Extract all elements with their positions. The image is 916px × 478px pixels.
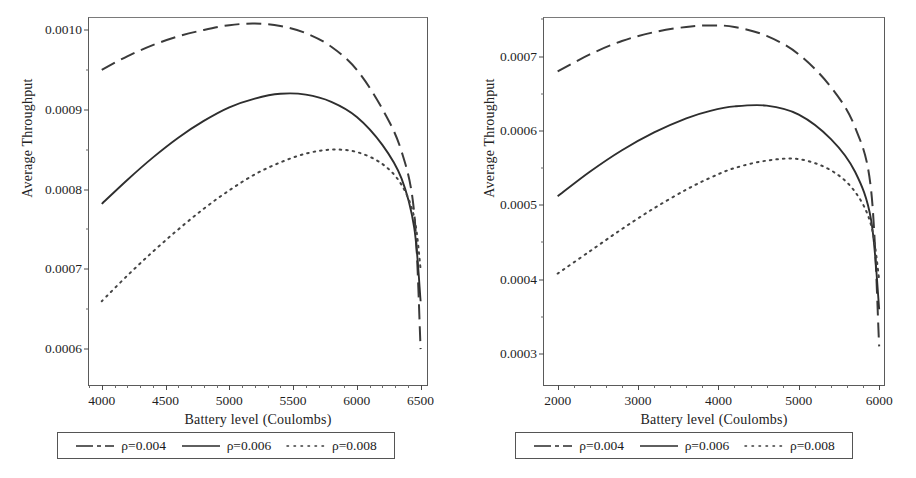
series-line-0 xyxy=(558,25,880,346)
right-x-axis-title: Battery level (Coulombs) xyxy=(544,412,884,428)
y-tick-label: 0.0007 xyxy=(45,261,89,277)
legend-entry-rho-0008: ρ=0.008 xyxy=(286,438,377,454)
y-tick-minor-mark xyxy=(86,309,89,310)
series-line-0 xyxy=(102,24,421,350)
x-tick-minor-mark xyxy=(370,385,371,388)
y-tick-minor-mark xyxy=(541,19,544,20)
right-legend: ρ=0.004 ρ=0.006 ρ=0.008 xyxy=(515,432,853,459)
y-tick-minor-mark xyxy=(86,149,89,150)
x-tick-mark xyxy=(229,385,230,390)
legend-entry-rho-0006: ρ=0.006 xyxy=(181,438,272,454)
x-tick-minor-mark xyxy=(306,385,307,388)
x-tick-mark xyxy=(102,385,103,390)
x-tick-mark xyxy=(293,385,294,390)
x-tick-minor-mark xyxy=(140,385,141,388)
series-line-2 xyxy=(102,150,421,302)
y-tick-mark xyxy=(84,29,89,30)
y-tick-label: 0.0007 xyxy=(500,49,544,65)
left-y-axis-title: Average Throughput xyxy=(20,58,36,218)
dashed-line-icon xyxy=(75,441,115,451)
x-tick-minor-mark xyxy=(115,385,116,388)
y-tick-mark xyxy=(84,109,89,110)
x-tick-minor-mark xyxy=(751,385,752,388)
x-tick-minor-mark xyxy=(191,385,192,388)
x-tick-minor-mark xyxy=(344,385,345,388)
y-tick-label: 0.0006 xyxy=(500,123,544,139)
y-tick-minor-mark xyxy=(541,93,544,94)
x-tick-mark xyxy=(558,385,559,390)
y-tick-minor-mark xyxy=(541,168,544,169)
x-tick-minor-mark xyxy=(574,385,575,388)
series-line-2 xyxy=(558,158,880,279)
x-tick-minor-mark xyxy=(382,385,383,388)
solid-line-icon xyxy=(639,441,679,451)
x-tick-minor-mark xyxy=(815,385,816,388)
x-tick-minor-mark xyxy=(606,385,607,388)
left-plot-canvas xyxy=(89,18,427,385)
legend-entry-rho-0004: ρ=0.004 xyxy=(533,438,624,454)
y-tick-minor-mark xyxy=(86,229,89,230)
x-tick-mark xyxy=(879,385,880,390)
y-tick-mark xyxy=(539,130,544,131)
y-tick-label: 0.0004 xyxy=(500,272,544,288)
y-tick-label: 0.0009 xyxy=(45,102,89,118)
legend-label-rho-0004: ρ=0.004 xyxy=(121,438,166,454)
legend-label-rho-0004: ρ=0.004 xyxy=(579,438,624,454)
x-tick-mark xyxy=(166,385,167,390)
x-tick-mark xyxy=(718,385,719,390)
x-tick-minor-mark xyxy=(89,385,90,388)
y-tick-mark xyxy=(539,56,544,57)
y-tick-mark xyxy=(84,349,89,350)
x-tick-minor-mark xyxy=(217,385,218,388)
x-tick-mark xyxy=(799,385,800,390)
left-x-axis-title: Battery level (Coulombs) xyxy=(89,412,427,428)
y-tick-mark xyxy=(539,205,544,206)
x-tick-minor-mark xyxy=(734,385,735,388)
x-tick-minor-mark xyxy=(863,385,864,388)
x-tick-mark xyxy=(638,385,639,390)
x-tick-minor-mark xyxy=(622,385,623,388)
legend-label-rho-0006: ρ=0.006 xyxy=(227,438,272,454)
series-line-1 xyxy=(558,105,880,309)
x-tick-minor-mark xyxy=(847,385,848,388)
y-tick-minor-mark xyxy=(541,316,544,317)
y-tick-minor-mark xyxy=(541,242,544,243)
x-tick-minor-mark xyxy=(654,385,655,388)
y-tick-minor-mark xyxy=(86,69,89,70)
dotted-line-icon xyxy=(286,441,326,451)
x-tick-minor-mark xyxy=(127,385,128,388)
left-panel: Average Throughput Battery level (Coulom… xyxy=(0,0,458,478)
x-tick-mark xyxy=(421,385,422,390)
y-tick-mark xyxy=(84,189,89,190)
y-tick-label: 0.0005 xyxy=(500,197,544,213)
legend-entry-rho-0004: ρ=0.004 xyxy=(75,438,166,454)
x-tick-minor-mark xyxy=(331,385,332,388)
y-tick-label: 0.0010 xyxy=(45,22,89,38)
y-tick-label: 0.0006 xyxy=(45,341,89,357)
x-tick-minor-mark xyxy=(153,385,154,388)
y-tick-mark xyxy=(84,269,89,270)
x-tick-minor-mark xyxy=(395,385,396,388)
left-legend: ρ=0.004 ρ=0.006 ρ=0.008 xyxy=(57,432,395,459)
solid-line-icon xyxy=(181,441,221,451)
series-line-1 xyxy=(102,93,421,301)
x-tick-minor-mark xyxy=(280,385,281,388)
x-tick-minor-mark xyxy=(590,385,591,388)
left-plot-area: Battery level (Coulombs) 0.00060.00070.0… xyxy=(88,17,428,386)
legend-label-rho-0008: ρ=0.008 xyxy=(790,438,835,454)
y-tick-label: 0.0008 xyxy=(45,182,89,198)
legend-label-rho-0008: ρ=0.008 xyxy=(332,438,377,454)
x-tick-minor-mark xyxy=(268,385,269,388)
x-tick-minor-mark xyxy=(408,385,409,388)
y-tick-mark xyxy=(539,279,544,280)
x-tick-minor-mark xyxy=(702,385,703,388)
x-tick-minor-mark xyxy=(783,385,784,388)
right-plot-area: Battery level (Coulombs) 0.00030.00040.0… xyxy=(543,17,885,386)
x-tick-minor-mark xyxy=(204,385,205,388)
x-tick-minor-mark xyxy=(255,385,256,388)
dotted-line-icon xyxy=(744,441,784,451)
x-tick-minor-mark xyxy=(686,385,687,388)
x-tick-minor-mark xyxy=(319,385,320,388)
x-tick-minor-mark xyxy=(178,385,179,388)
x-tick-minor-mark xyxy=(670,385,671,388)
